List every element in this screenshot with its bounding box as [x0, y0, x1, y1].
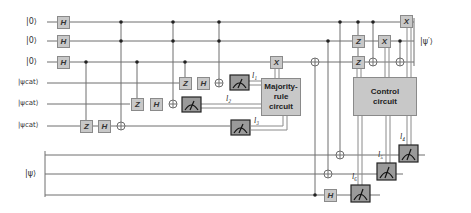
z-gate-cat-1: Z — [179, 77, 192, 90]
z-gate-ancilla-3: Z — [352, 56, 365, 69]
cnot-target-cat2 — [169, 100, 177, 108]
h-gate-cat-2: H — [150, 98, 163, 111]
input-label-cat-2: |ψcat⟩ — [18, 99, 39, 107]
input-label-ancilla-3: |0⟩ — [26, 57, 37, 66]
input-label-ancilla-1: |0⟩ — [26, 17, 37, 26]
cnot-target-anc3-c — [396, 58, 404, 66]
majority-rule-circuit-box: Majority- rule circuit — [261, 78, 301, 116]
h-gate-cat-3: H — [98, 120, 111, 133]
quantum-circuit-diagram: |0⟩ |0⟩ |0⟩ |ψcat⟩ |ψcat⟩ |ψcat⟩ |ψ⟩ |ψ′… — [0, 0, 471, 213]
z-gate-ancilla-2: Z — [352, 35, 365, 48]
input-label-cat-3: |ψcat⟩ — [18, 121, 39, 129]
cnot-target-data1 — [336, 151, 344, 159]
output-label: |ψ′⟩ — [420, 37, 433, 46]
input-label-ancilla-2: |0⟩ — [26, 36, 37, 45]
measurement-label-l1: l₁ — [252, 71, 257, 80]
measurement-label-l3: l₃ — [254, 116, 259, 125]
meter-l4-icon — [399, 145, 418, 162]
x-gate-ancilla-3: X — [270, 56, 283, 69]
control-circuit-box: Control circuit — [353, 77, 417, 116]
cnot-target-anc3-a — [311, 58, 319, 66]
h-gate-ancilla-2: H — [57, 35, 70, 48]
h-gate-ancilla-1: H — [57, 16, 70, 29]
cnot-target-cat1 — [215, 79, 223, 87]
majority-line-1: Majority- — [264, 82, 297, 92]
z-gate-cat-2: Z — [131, 98, 144, 111]
x-gate-ancilla-2: X — [378, 35, 391, 48]
measurement-label-l4: l₄ — [400, 132, 405, 141]
meter-l3-icon — [231, 120, 250, 135]
measurement-label-l5: l₅ — [378, 150, 383, 159]
x-gate-ancilla-1: X — [400, 15, 413, 28]
h-gate-data-3: H — [324, 189, 337, 202]
input-label-cat-1: |ψcat⟩ — [18, 78, 39, 86]
majority-line-3: circuit — [264, 102, 297, 112]
input-label-data: |ψ⟩ — [25, 169, 36, 178]
meter-l6-icon — [351, 185, 370, 202]
meter-l1-icon — [230, 75, 249, 90]
control-line-1: Control — [371, 87, 399, 97]
z-gate-cat-3: Z — [80, 120, 93, 133]
cnot-target-anc3-b — [369, 58, 377, 66]
cnot-target-data2 — [324, 170, 332, 178]
h-gate-cat-1: H — [197, 77, 210, 90]
cnot-target-cat3 — [117, 122, 125, 130]
h-gate-ancilla-3: H — [57, 56, 70, 69]
measurement-label-l2: l₂ — [226, 94, 231, 103]
majority-line-2: rule — [264, 92, 297, 102]
meter-l2-icon — [182, 97, 201, 112]
measurement-label-l6: l₆ — [352, 172, 357, 181]
meter-l5-icon — [377, 163, 396, 180]
control-line-2: circuit — [371, 97, 399, 107]
